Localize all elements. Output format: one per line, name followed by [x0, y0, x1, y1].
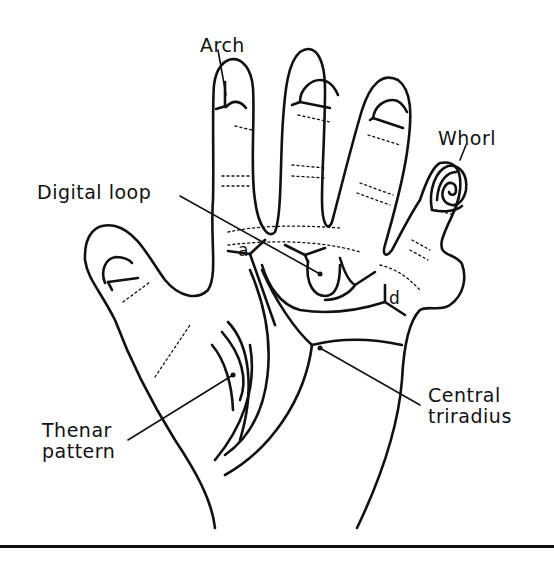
- label-digital-loop: Digital loop: [37, 182, 151, 203]
- label-central-line2: triradius: [428, 406, 512, 427]
- label-triradius-a: a: [238, 240, 249, 261]
- label-thenar-pattern: Thenar pattern: [42, 420, 115, 462]
- hand-outline: [85, 49, 464, 528]
- hand-diagram: [0, 0, 554, 561]
- label-central-line1: Central: [428, 385, 512, 406]
- label-central-triradius: Central triradius: [428, 385, 512, 427]
- label-triradius-d: d: [389, 288, 400, 309]
- label-arch: Arch: [200, 35, 245, 56]
- label-whorl: Whorl: [438, 128, 496, 149]
- bottom-rule: [0, 545, 554, 548]
- label-thenar-line2: pattern: [42, 441, 115, 462]
- label-thenar-line1: Thenar: [42, 420, 115, 441]
